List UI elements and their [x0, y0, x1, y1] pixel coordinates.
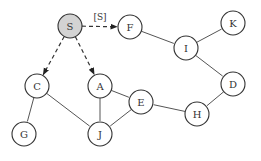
node-c: C: [25, 74, 49, 98]
node-label: F: [127, 22, 134, 33]
node-j: J: [88, 122, 112, 146]
node-label: D: [229, 79, 237, 90]
node-label: I: [184, 43, 188, 54]
node-e: E: [129, 90, 153, 114]
node-label: E: [137, 97, 144, 108]
node-label: G: [20, 129, 28, 140]
edge-s-a: [75, 37, 94, 75]
node-label: S: [67, 21, 74, 32]
node-f: F: [118, 15, 142, 39]
node-a: A: [88, 74, 112, 98]
node-label: K: [229, 18, 237, 29]
edge-a-e: [111, 90, 129, 97]
edge-d-h: [207, 92, 224, 106]
node-label: H: [193, 109, 202, 120]
node-label: A: [95, 81, 104, 92]
edge-e-j: [110, 109, 131, 126]
edge-label: [S]: [93, 12, 106, 22]
edge-i-d: [196, 55, 223, 76]
edge-c-j: [47, 93, 90, 126]
edge-s-c: [43, 37, 64, 75]
node-d: D: [221, 72, 245, 96]
edge-c-g: [27, 98, 33, 122]
edge-s-f: [82, 26, 117, 27]
edge-f-i: [141, 31, 174, 43]
node-s: S: [58, 14, 82, 38]
graph-diagram: [S] SFIKDHEAJCG: [0, 0, 261, 161]
edge-h-e: [154, 105, 186, 112]
node-h: H: [185, 102, 209, 126]
node-g: G: [12, 122, 36, 146]
node-i: I: [174, 36, 198, 60]
node-label: J: [97, 129, 102, 140]
nodes-layer: SFIKDHEAJCG: [12, 11, 245, 146]
node-label: C: [33, 81, 41, 92]
edge-i-k: [197, 29, 222, 42]
node-k: K: [221, 11, 245, 35]
edge-labels-layer: [S]: [93, 12, 106, 22]
